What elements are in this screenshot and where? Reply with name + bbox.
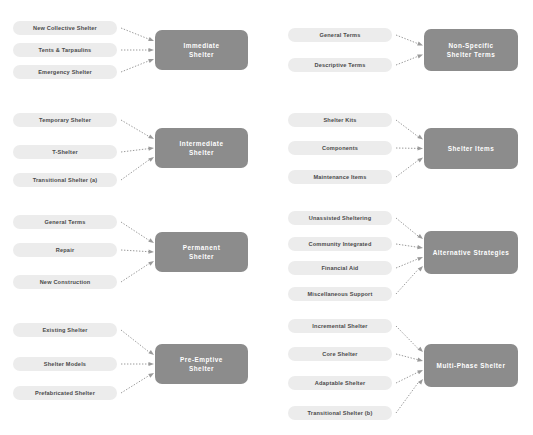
category-node-label-line: Shelter	[183, 50, 219, 59]
connector-line	[121, 149, 149, 152]
source-pill-label: Miscellaneous Support	[307, 291, 372, 297]
connector-arrowhead	[148, 59, 154, 63]
source-pill[interactable]: New Collective Shelter	[13, 21, 117, 35]
connector-arrowhead	[148, 250, 154, 254]
taxonomy-diagram: ImmediateShelterNew Collective ShelterTe…	[0, 0, 533, 435]
connector-arrowhead	[148, 373, 154, 378]
source-pill[interactable]: Shelter Kits	[288, 113, 392, 127]
source-pill-label: Transitional Shelter (a)	[33, 177, 98, 183]
source-pill[interactable]: General Terms	[13, 215, 117, 229]
connector-arrowhead	[148, 350, 154, 355]
connector-arrowhead	[148, 238, 154, 243]
source-pill-label: Maintenance Items	[313, 174, 366, 180]
connector-line	[396, 35, 418, 44]
source-pill[interactable]: Emergency Shelter	[13, 65, 117, 79]
source-pill-label: Repair	[56, 247, 75, 253]
source-pill[interactable]: Community Integrated	[288, 237, 392, 251]
connector-line	[121, 376, 149, 393]
category-node-shelter-items[interactable]: Shelter Items	[424, 128, 518, 169]
category-node-label-line: Pre-Emptive	[180, 355, 223, 364]
connector-line	[396, 383, 418, 413]
connector-arrowhead	[148, 261, 154, 266]
source-pill-label: Core Shelter	[322, 351, 357, 357]
category-node-label: Multi-Phase Shelter	[437, 361, 506, 370]
source-pill-label: Incremental Shelter	[312, 323, 367, 329]
connector-arrowhead	[418, 347, 423, 352]
source-pill[interactable]: Core Shelter	[288, 347, 392, 361]
category-node-multi-phase-shelter[interactable]: Multi-Phase Shelter	[424, 344, 518, 387]
category-node-label: PermanentShelter	[183, 243, 221, 262]
category-node-label-line: Alternative Strategies	[433, 248, 510, 257]
source-pill-label: Shelter Models	[44, 361, 86, 367]
connector-line	[121, 222, 149, 240]
source-pill[interactable]: Prefabricated Shelter	[13, 386, 117, 400]
category-node-label: Shelter Items	[448, 144, 495, 153]
connector-arrowhead	[148, 37, 154, 41]
source-pill-label: Components	[322, 145, 358, 151]
source-pill[interactable]: T-Shelter	[13, 145, 117, 159]
source-pill[interactable]: General Terms	[288, 28, 392, 42]
connector-arrowhead	[417, 158, 423, 163]
source-pill-label: Unassisted Sheltering	[309, 215, 372, 221]
connector-line	[396, 244, 418, 247]
connector-line	[396, 56, 418, 65]
connector-arrowhead	[148, 134, 154, 139]
connector-arrowhead	[417, 370, 423, 374]
source-pill-label: T-Shelter	[52, 149, 78, 155]
source-pill[interactable]: Transitional Shelter (b)	[288, 406, 392, 420]
source-pill-label: Descriptive Terms	[314, 62, 365, 68]
source-pill[interactable]: Temporary Shelter	[13, 113, 117, 127]
source-pill[interactable]: Shelter Models	[13, 357, 117, 371]
category-node-immediate-shelter[interactable]: ImmediateShelter	[155, 30, 248, 70]
category-node-alternative-strategies[interactable]: Alternative Strategies	[424, 231, 518, 274]
connector-line	[121, 28, 149, 39]
category-node-label: Pre-EmptiveShelter	[180, 355, 223, 374]
source-pill[interactable]: Tents & Tarpaulins	[13, 43, 117, 57]
category-node-permanent-shelter[interactable]: PermanentShelter	[155, 232, 248, 272]
connector-arrowhead	[149, 362, 155, 366]
source-pill[interactable]: Descriptive Terms	[288, 58, 392, 72]
connector-arrowhead	[149, 48, 155, 52]
source-pill[interactable]: Incremental Shelter	[288, 319, 392, 333]
source-pill[interactable]: Repair	[13, 243, 117, 257]
category-node-intermediate-shelter[interactable]: IntermediateShelter	[155, 128, 248, 168]
source-pill-label: General Terms	[44, 219, 85, 225]
category-node-pre-emptive-shelter[interactable]: Pre-EmptiveShelter	[155, 344, 248, 384]
source-pill-label: Adaptable Shelter	[315, 380, 366, 386]
connector-arrowhead	[417, 234, 423, 239]
connector-line	[121, 120, 149, 137]
category-node-label-line: Non-Specific	[447, 41, 496, 50]
source-pill-label: Temporary Shelter	[39, 117, 91, 123]
source-pill[interactable]: Components	[288, 141, 392, 155]
category-node-label: IntermediateShelter	[179, 139, 223, 158]
connector-arrowhead	[418, 266, 423, 271]
connector-line	[121, 250, 149, 252]
source-pill-label: Transitional Shelter (b)	[308, 410, 373, 416]
category-node-label-line: Multi-Phase Shelter	[437, 361, 506, 370]
source-pill[interactable]: Existing Shelter	[13, 323, 117, 337]
category-node-label-line: Immediate	[183, 41, 219, 50]
source-pill[interactable]: Unassisted Sheltering	[288, 211, 392, 225]
source-pill[interactable]: Financial Aid	[288, 261, 392, 275]
source-pill[interactable]: New Construction	[13, 275, 117, 289]
category-node-label-line: Intermediate	[179, 139, 223, 148]
connector-arrowhead	[148, 157, 154, 162]
connector-line	[396, 120, 418, 137]
category-node-label-line: Shelter	[183, 252, 221, 261]
source-pill[interactable]: Maintenance Items	[288, 170, 392, 184]
source-pill-label: Community Integrated	[309, 241, 372, 247]
connector-line	[121, 264, 149, 282]
connector-arrowhead	[417, 146, 423, 150]
category-node-non-specific-shelter-terms[interactable]: Non-SpecificShelter Terms	[424, 29, 518, 71]
connector-line	[396, 160, 418, 177]
category-node-label-line: Shelter	[180, 364, 223, 373]
source-pill-label: Shelter Kits	[323, 117, 356, 123]
category-node-label-line: Shelter Items	[448, 144, 495, 153]
source-pill[interactable]: Transitional Shelter (a)	[13, 173, 117, 187]
source-pill-label: New Construction	[40, 279, 91, 285]
source-pill[interactable]: Adaptable Shelter	[288, 376, 392, 390]
source-pill[interactable]: Miscellaneous Support	[288, 287, 392, 301]
source-pill-label: General Terms	[319, 32, 360, 38]
source-pill-label: Prefabricated Shelter	[35, 390, 95, 396]
connector-arrowhead	[417, 257, 423, 261]
